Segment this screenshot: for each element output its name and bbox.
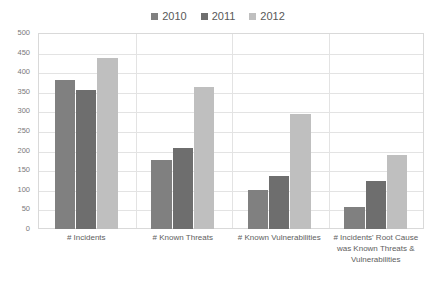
- x-axis-category-label: # Incidents: [38, 232, 135, 243]
- y-axis-tick-label: 250: [17, 127, 30, 135]
- bar: [344, 207, 364, 229]
- y-axis-tick-label: 200: [17, 147, 30, 155]
- legend-label: 2012: [260, 11, 284, 22]
- x-axis-label-line: Vulnerabilities: [328, 254, 425, 265]
- y-axis-tick-label: 400: [17, 68, 30, 76]
- x-axis-label-line: was Known Threats &: [328, 243, 425, 254]
- legend-label: 2010: [162, 11, 186, 22]
- x-axis-label-line: # Known Vulnerabilities: [231, 232, 328, 243]
- bar: [55, 80, 75, 229]
- x-axis-label-line: # Known Threats: [135, 232, 232, 243]
- legend-entry: 2010: [151, 11, 186, 22]
- bars-layer: [38, 33, 424, 229]
- bar: [97, 58, 117, 229]
- chart-legend: 201020112012: [0, 8, 436, 24]
- bar: [248, 190, 268, 229]
- legend-label: 2011: [212, 11, 236, 22]
- bar: [387, 155, 407, 229]
- x-axis-label-line: # Incidents: [38, 232, 135, 243]
- legend-entry: 2011: [201, 11, 236, 22]
- y-axis-tick-label: 150: [17, 166, 30, 174]
- y-axis-tick-label: 50: [22, 205, 30, 213]
- y-axis: 500450400350300250200150100500: [0, 33, 34, 229]
- y-axis-tick-label: 450: [17, 49, 30, 57]
- legend-swatch-icon: [249, 13, 256, 20]
- x-axis-category-label: # Incidents' Root Causewas Known Threats…: [328, 232, 425, 265]
- y-axis-tick-label: 100: [17, 186, 30, 194]
- x-axis: # Incidents# Known Threats# Known Vulner…: [38, 232, 424, 284]
- legend-entry: 2012: [249, 11, 284, 22]
- bar: [194, 87, 214, 229]
- x-axis-label-line: # Incidents' Root Cause: [328, 232, 425, 243]
- x-axis-category-label: # Known Threats: [135, 232, 232, 243]
- bar: [173, 148, 193, 229]
- y-axis-tick-label: 0: [26, 225, 30, 233]
- legend-swatch-icon: [201, 13, 208, 20]
- y-axis-tick-label: 300: [17, 107, 30, 115]
- x-axis-category-label: # Known Vulnerabilities: [231, 232, 328, 243]
- bar: [269, 176, 289, 229]
- bar: [366, 181, 386, 229]
- bar-chart: 201020112012 500450400350300250200150100…: [0, 0, 436, 287]
- bar: [76, 90, 96, 229]
- bar: [151, 160, 171, 229]
- bar: [290, 114, 310, 229]
- y-axis-tick-label: 350: [17, 88, 30, 96]
- y-axis-tick-label: 500: [17, 29, 30, 37]
- legend-swatch-icon: [151, 13, 158, 20]
